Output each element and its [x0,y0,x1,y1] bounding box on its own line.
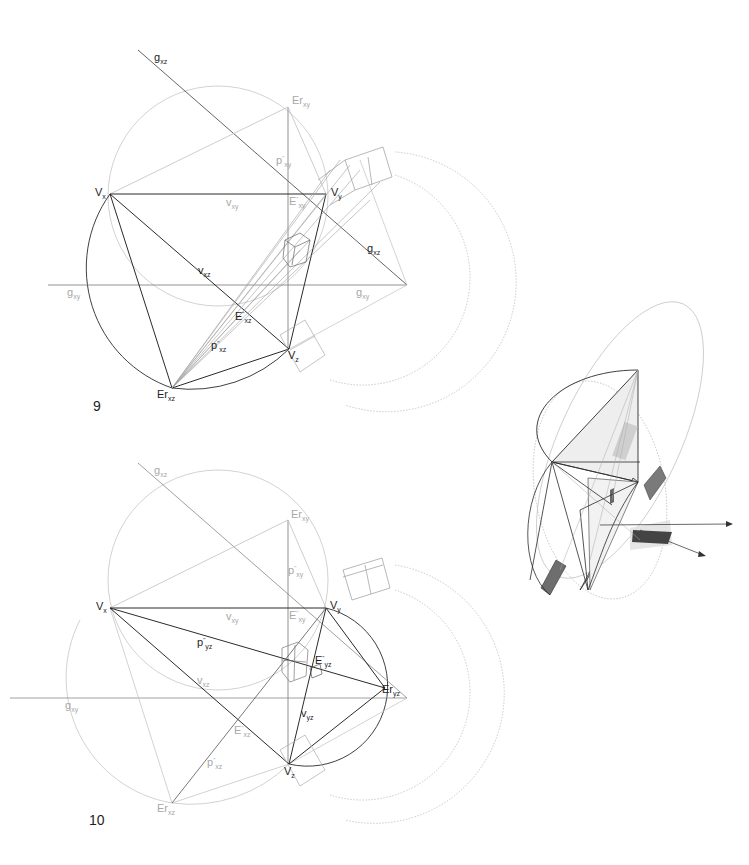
figure-9 [48,50,516,412]
label-g-xy-right: gxy [356,287,369,300]
label-p-xy: p"xy [276,155,291,168]
label-e-xz: E"xz [235,311,251,324]
label-e-xy: E"xy [289,610,305,623]
label-v-z: Vz [288,350,299,363]
label-v-y: Vy [331,187,342,200]
label-v-z: Vz [284,766,295,779]
label-er-xy: Erxy [292,95,310,108]
label-p-xz: p"xz [211,340,226,353]
axonometric-view [502,279,738,610]
figure-10 [10,463,504,823]
label-v-xz: vxz [198,265,211,278]
figure-number-9: 9 [93,398,101,414]
label-e-xz: E"xz [234,725,250,738]
drawing-canvas [0,0,749,865]
label-p-xy: p"xy [288,565,303,578]
label-p-yz: p"yz [197,637,212,650]
label-v-x: Vx [95,187,106,200]
label-e-xy: E"xy [289,196,305,209]
label-er-yz: Eryz [382,684,400,697]
label-er-xz: Erxz [157,389,175,402]
figure-number-10: 10 [89,812,105,828]
label-g-xz: gxz [154,52,167,65]
label-v-yz: vyz [301,708,314,721]
label-v-x: Vx [96,601,107,614]
label-v-xy: vxy [226,611,239,624]
label-e-yz: E"yz [315,655,331,668]
label-v-y: Vy [330,600,341,613]
label-g-xz-right: gxz [367,243,380,256]
label-v-xy: vxy [226,197,239,210]
label-g-xy-left: gxy [65,700,78,713]
label-er-xy: Erxy [291,509,309,522]
label-p-xz: p"xz [207,757,222,770]
label-g-xz: gxz [154,465,167,478]
label-er-xz: Erxz [157,803,175,816]
label-v-xz: vxz [197,675,210,688]
label-g-xy-left: gxy [67,287,80,300]
